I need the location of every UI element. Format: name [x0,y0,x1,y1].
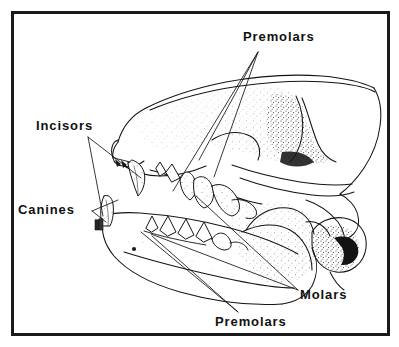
label-canines: Canines [18,202,75,217]
label-premolars-bottom: Premolars [215,314,287,329]
mental-foramen [132,247,136,251]
skull-diagram-figure: Premolars Incisors Canines Molars Premol… [0,0,399,347]
label-incisors: Incisors [36,118,93,133]
label-molars: Molars [300,287,347,302]
label-premolars-top: Premolars [243,29,315,44]
skull-diagram-canvas: Premolars Incisors Canines Molars Premol… [0,0,399,347]
lower-incisors [95,219,103,230]
